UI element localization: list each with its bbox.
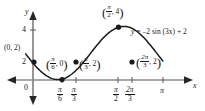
data-point-1 [59, 77, 64, 82]
x-tick-label-pi-over-6: π 6 [57, 86, 63, 102]
point-label-denominator: 6 [50, 64, 56, 71]
point-label-pi-over-2-4: (π2, 4) [102, 5, 124, 20]
y-tick-label-2: 2 [22, 58, 26, 66]
x-axis-label: x [193, 82, 197, 90]
point-label-0-2: (0, 2) [4, 44, 20, 52]
data-point-4 [129, 59, 134, 64]
equation-rhs: –2 sin (3x) + 2 [143, 27, 187, 36]
x-axis [7, 76, 193, 84]
x-tick-label-pi-over-2: π 2 [113, 86, 119, 102]
x-tick-label-pi: π [160, 87, 164, 95]
x-tick-denominator: 3 [71, 95, 77, 103]
x-tick-label-0: 0 [24, 84, 28, 92]
equation-operator: = [136, 27, 140, 36]
right-paren: ) [96, 57, 100, 72]
equation-lhs: y [131, 27, 134, 36]
equation-label: y=–2 sin (3x) + 2 [131, 28, 187, 36]
sine-graph-figure: y x 4 2 0 π 6 π 3 π 2 2π 3 π (0, 2) (π6,… [0, 0, 205, 111]
x-tick-denominator: 6 [57, 95, 63, 103]
x-tick-denominator: 2 [113, 95, 119, 103]
point-label-denominator: 3 [140, 62, 149, 69]
data-point-3 [116, 25, 121, 30]
right-paren: ) [63, 57, 67, 72]
point-label-2pi-over-3-2: (2π3, 2) [136, 55, 161, 70]
right-paren: ) [119, 5, 123, 20]
point-label-pi-over-3-2: (π3, 2) [79, 57, 101, 72]
data-point-2 [73, 59, 78, 64]
data-point-0 [31, 59, 36, 64]
x-tick-label-2pi-over-3: 2π 3 [125, 86, 135, 102]
point-label-pi-over-6-0: (π6, 0) [46, 57, 68, 72]
data-points [31, 25, 134, 83]
y-tick-label-4: 4 [22, 26, 26, 34]
point-label-denominator: 2 [106, 12, 112, 19]
point-label-denominator: 3 [83, 64, 89, 71]
x-tick-denominator: 3 [125, 95, 135, 103]
right-paren: ) [157, 55, 161, 70]
y-axis-label: y [25, 8, 29, 16]
x-tick-label-pi-over-3: π 3 [71, 86, 77, 102]
y-axis [29, 11, 36, 105]
